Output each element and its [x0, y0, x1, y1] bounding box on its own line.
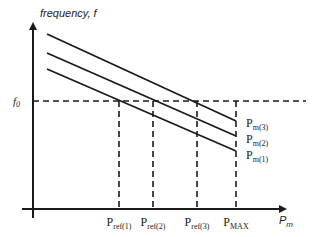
curve-labels: Pm(3)Pm(2)Pm(1) [246, 116, 269, 164]
curve-pm3 [47, 34, 236, 121]
x-axis-label: Pm [279, 214, 293, 229]
curve-label-pm2: Pm(2) [246, 132, 269, 148]
y-axis-label: frequency, f [40, 7, 98, 19]
tick-label-pref3: Pref(3) [185, 215, 210, 231]
curve-pm2 [47, 53, 236, 136]
f0-label: f0 [13, 95, 20, 109]
tick-label-pmax: PMAX [223, 215, 249, 231]
droop-curves [47, 34, 236, 151]
droop-characteristic-diagram: frequency, f f0 Pm Pm(3)Pm(2)Pm(1) Pref(… [0, 0, 312, 237]
curve-pm1 [47, 69, 236, 151]
diagram-svg: frequency, f f0 Pm Pm(3)Pm(2)Pm(1) Pref(… [0, 0, 312, 237]
reference-power-lines [119, 101, 236, 209]
curve-label-pm3: Pm(3) [246, 116, 269, 132]
curve-label-pm1: Pm(1) [246, 148, 269, 164]
tick-label-pref1: Pref(1) [107, 215, 132, 231]
tick-label-pref2: Pref(2) [141, 215, 166, 231]
tick-labels: Pref(1)Pref(2)Pref(3)PMAX [107, 215, 249, 231]
